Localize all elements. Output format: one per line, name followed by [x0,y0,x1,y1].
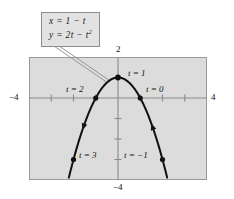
point-tm1 [160,157,165,162]
point-t0 [138,95,143,100]
equation-exponent: 2 [89,28,93,35]
axis-label-right: 4 [211,92,216,102]
point-label-tm1: t = −1 [124,150,148,160]
parametric-curve-figure: x = 1 − t y = 2t − t2 −4 4 2 −4 t = 3 t … [0,0,234,199]
arrowhead-left-branch [82,123,87,130]
callout-leader-line [51,42,110,83]
axis-label-bottom: −4 [113,182,123,192]
axis-label-top: 2 [116,44,121,54]
point-label-t1: t = 1 [128,68,146,78]
equation-callout-box: x = 1 − t y = 2t − t2 [41,12,100,47]
equation-line-x: x = 1 − t [49,16,92,28]
point-t3 [71,157,76,162]
axis-label-left: −4 [9,92,19,102]
direction-arrows [82,123,156,131]
point-label-t0: t = 0 [146,84,164,94]
point-t2 [93,95,98,100]
point-label-t2: t = 2 [66,84,84,94]
arrowhead-right-branch [151,124,156,131]
point-t1 [115,75,121,81]
equation-line-y: y = 2t − t2 [49,28,92,42]
plot-graphics [0,0,234,199]
equation-line-y-text: y = 2t − t [49,30,89,40]
point-label-t3: t = 3 [79,150,97,160]
